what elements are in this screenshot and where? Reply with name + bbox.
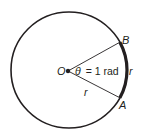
- center-point: [66, 69, 70, 73]
- center-label: O: [57, 65, 66, 77]
- theta-value: = 1 rad: [86, 65, 119, 77]
- radius-label: r: [84, 86, 88, 98]
- radian-diagram: O θ = 1 rad B A r r: [0, 0, 142, 139]
- point-b-label: B: [122, 34, 129, 46]
- arc-length-label: r: [129, 65, 133, 77]
- point-a-label: A: [118, 99, 126, 111]
- theta-label: θ = 1 rad: [75, 65, 119, 77]
- arc-ab: [120, 42, 127, 98]
- theta-symbol: θ: [75, 65, 81, 77]
